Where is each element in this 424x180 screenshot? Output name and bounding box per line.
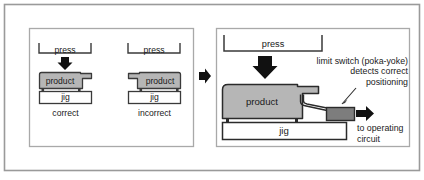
annotation-line-2: detects correct xyxy=(350,66,408,76)
product-label-right: product xyxy=(246,96,278,107)
caption-correct: correct xyxy=(52,108,79,118)
jig-label-right: jig xyxy=(278,125,289,136)
jig-correct: jig xyxy=(40,92,92,104)
limit-switch-body xyxy=(327,108,355,121)
product-label-correct: product xyxy=(46,76,75,86)
output-label-line-2: circuit xyxy=(357,134,381,144)
annotation-line-3: positioning xyxy=(366,77,408,87)
canvas-background xyxy=(0,0,424,180)
press-label-correct: press xyxy=(54,45,75,55)
product-label-incorrect: product xyxy=(146,76,175,86)
annotation-line-1: limit switch (poka-yoke) xyxy=(317,56,408,66)
jig-label-incorrect: jig xyxy=(149,92,159,102)
output-label-line-1: to operating xyxy=(357,123,404,133)
jig-right: jig xyxy=(223,123,347,140)
press-label-incorrect: press xyxy=(143,45,164,55)
caption-incorrect: incorrect xyxy=(138,108,172,118)
jig-label-correct: jig xyxy=(60,92,70,102)
press-label-right: press xyxy=(262,39,285,49)
jig-incorrect: jig xyxy=(129,92,181,104)
figure-root: press product xyxy=(0,0,424,180)
diagram-canvas: press product xyxy=(0,0,424,180)
